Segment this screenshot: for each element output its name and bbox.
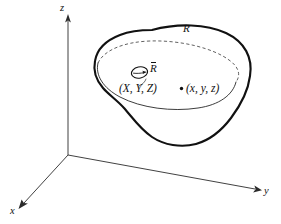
figure-canvas: z y x R R (X, Y, Z) (x, y, z) — [0, 0, 281, 224]
diagram-vector-layer — [0, 0, 281, 224]
z-axis — [65, 14, 71, 155]
z-axis-label: z — [60, 3, 64, 14]
region-R-label: R — [183, 23, 190, 34]
field-point-label: (x, y, z) — [186, 83, 219, 95]
y-axis — [68, 155, 262, 193]
x-axis — [19, 155, 69, 209]
subregion-R-bar-label: R — [150, 62, 157, 74]
source-point-label: (X, Y, Z) — [119, 83, 157, 95]
y-axis-label: y — [264, 186, 269, 197]
volume-region-R-outline — [94, 25, 250, 145]
x-axis-arrowhead — [19, 200, 28, 209]
field-point-dot — [180, 87, 183, 90]
overbar-R-glyph: R — [150, 62, 157, 74]
x-axis-label: x — [10, 206, 15, 217]
